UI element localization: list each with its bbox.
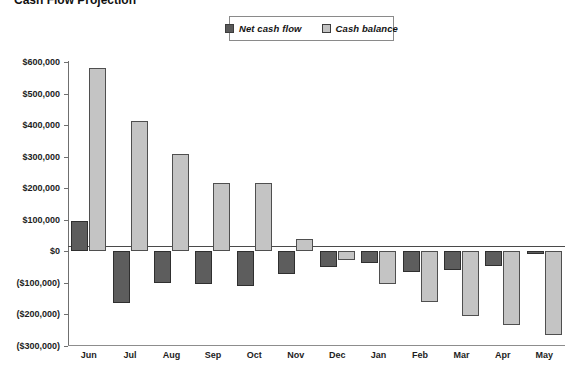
bar-cash-balance-apr [503,251,520,324]
legend-label-cash-balance: Cash balance [336,23,398,34]
y-axis-label: $200,000 [22,183,60,193]
x-axis-label-may: May [524,350,565,360]
bar-net-cash-flow-nov [278,251,295,274]
plot-area: $600,000$500,000$400,000$300,000$200,000… [68,62,565,346]
bar-group-jul: Jul [109,62,150,346]
y-axis-label: $0 [50,246,60,256]
bar-group-dec: Dec [317,62,358,346]
cash-flow-chart: Cash Flow Projection Net cash flow Cash … [0,0,573,378]
page-title: Cash Flow Projection [14,0,164,7]
y-axis-label: $600,000 [22,57,60,67]
x-axis-label-feb: Feb [399,350,440,360]
x-axis-label-jan: Jan [358,350,399,360]
y-axis-tick [64,346,68,347]
x-axis-label-apr: Apr [482,350,523,360]
bar-net-cash-flow-feb [403,251,420,272]
bar-group-mar: Mar [441,62,482,346]
y-axis-label: ($100,000) [16,278,60,288]
bar-cash-balance-feb [421,251,438,301]
y-axis-label: $500,000 [22,89,60,99]
legend-swatch-icon [225,24,234,33]
bar-cash-balance-jun [89,68,106,251]
bar-cash-balance-mar [462,251,479,316]
x-axis-label-jun: Jun [68,350,109,360]
bar-cash-balance-aug [172,154,189,251]
x-axis-label-mar: Mar [441,350,482,360]
bar-net-cash-flow-jan [361,251,378,263]
legend-item-net-cash-flow: Net cash flow [225,23,302,34]
bar-cash-balance-may [545,251,562,335]
bar-net-cash-flow-jul [113,251,130,303]
bar-cash-balance-dec [338,251,355,260]
bar-group-aug: Aug [151,62,192,346]
x-axis-label-dec: Dec [317,350,358,360]
bar-cash-balance-sep [213,183,230,251]
y-axis-label: $400,000 [22,120,60,130]
bar-group-may: May [524,62,565,346]
bar-cash-balance-nov [296,239,313,251]
chart-legend: Net cash flow Cash balance [229,16,394,41]
bar-net-cash-flow-apr [485,251,502,266]
page-title-text: Cash Flow Projection [14,0,164,6]
bar-net-cash-flow-jun [71,221,88,251]
x-axis-label-sep: Sep [192,350,233,360]
bar-net-cash-flow-mar [444,251,461,269]
bar-net-cash-flow-sep [195,251,212,284]
legend-swatch-icon [322,24,331,33]
x-axis-label-oct: Oct [234,350,275,360]
bar-cash-balance-oct [255,183,272,251]
bar-net-cash-flow-aug [154,251,171,283]
bar-net-cash-flow-may [527,251,544,254]
y-axis-label: ($200,000) [16,309,60,319]
bar-group-feb: Feb [399,62,440,346]
legend-item-cash-balance: Cash balance [322,23,398,34]
y-axis-label: ($300,000) [16,341,60,351]
bar-group-oct: Oct [234,62,275,346]
bar-cash-balance-jul [131,121,148,251]
bar-net-cash-flow-dec [320,251,337,267]
bar-group-nov: Nov [275,62,316,346]
bar-cash-balance-jan [379,251,396,284]
x-axis-label-aug: Aug [151,350,192,360]
x-axis-label-nov: Nov [275,350,316,360]
bar-group-sep: Sep [192,62,233,346]
bar-net-cash-flow-oct [237,251,254,286]
bar-group-jun: Jun [68,62,109,346]
bar-group-jan: Jan [358,62,399,346]
x-axis-label-jul: Jul [109,350,150,360]
y-axis-label: $300,000 [22,152,60,162]
y-axis-label: $100,000 [22,215,60,225]
legend-label-net-cash-flow: Net cash flow [239,23,302,34]
bar-group-apr: Apr [482,62,523,346]
